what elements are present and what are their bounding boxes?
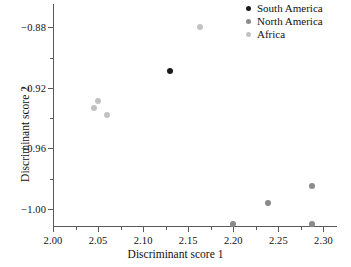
x-tick-minor bbox=[211, 227, 212, 230]
data-point bbox=[265, 200, 271, 206]
y-tick-minor bbox=[50, 118, 53, 119]
y-axis-spine bbox=[53, 4, 54, 227]
legend-marker-icon bbox=[246, 19, 251, 24]
x-axis-spine bbox=[53, 226, 337, 227]
y-tick-minor bbox=[50, 58, 53, 59]
x-tick-major bbox=[53, 227, 54, 232]
legend-item: North America bbox=[246, 15, 323, 27]
data-point bbox=[197, 24, 203, 30]
x-tick-label: 2.20 bbox=[224, 235, 243, 246]
x-tick-major bbox=[278, 227, 279, 232]
x-tick-label: 2.00 bbox=[44, 235, 63, 246]
legend-label: Africa bbox=[257, 28, 285, 40]
data-point bbox=[230, 221, 236, 227]
x-tick-major bbox=[143, 227, 144, 232]
x-tick-minor bbox=[166, 227, 167, 230]
x-tick-minor bbox=[301, 227, 302, 230]
y-tick-major bbox=[48, 209, 53, 210]
x-tick-label: 2.05 bbox=[89, 235, 108, 246]
y-tick-major bbox=[48, 148, 53, 149]
x-tick-minor bbox=[76, 227, 77, 230]
data-point bbox=[104, 112, 110, 118]
x-axis-title: Discriminant score 1 bbox=[0, 248, 351, 260]
legend-item: South America bbox=[246, 2, 323, 14]
x-tick-label: 2.30 bbox=[314, 235, 333, 246]
data-point bbox=[95, 98, 101, 104]
legend: South AmericaNorth AmericaAfrica bbox=[246, 2, 323, 40]
x-tick-major bbox=[98, 227, 99, 232]
legend-label: South America bbox=[257, 2, 323, 14]
y-tick-major bbox=[48, 88, 53, 89]
x-tick-label: 2.25 bbox=[269, 235, 288, 246]
y-tick-minor bbox=[50, 179, 53, 180]
data-point bbox=[91, 105, 97, 111]
data-point bbox=[309, 183, 315, 189]
y-tick-major bbox=[48, 27, 53, 28]
data-point bbox=[167, 68, 173, 74]
data-point bbox=[309, 221, 315, 227]
x-tick-major bbox=[323, 227, 324, 232]
x-tick-major bbox=[233, 227, 234, 232]
x-tick-label: 2.15 bbox=[179, 235, 198, 246]
x-tick-minor bbox=[256, 227, 257, 230]
scatter-plot-figure: −0.88−0.92−0.96−1.00 2.002.052.102.152.2… bbox=[0, 0, 351, 267]
x-tick-minor bbox=[121, 227, 122, 230]
legend-marker-icon bbox=[246, 32, 251, 37]
legend-item: Africa bbox=[246, 28, 323, 40]
y-axis-title: Discriminant score 2 bbox=[19, 54, 31, 214]
x-tick-major bbox=[188, 227, 189, 232]
y-tick-label: −0.88 bbox=[21, 22, 46, 33]
legend-label: North America bbox=[257, 15, 323, 27]
legend-marker-icon bbox=[246, 6, 251, 11]
x-tick-label: 2.10 bbox=[134, 235, 153, 246]
